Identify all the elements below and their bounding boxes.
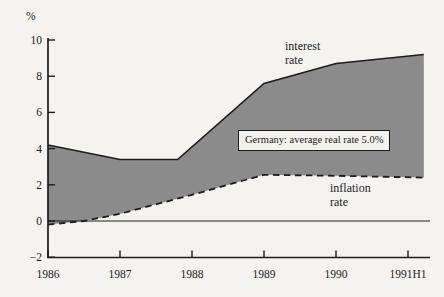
y-tick-label: 10 [31,34,43,46]
interest-rate-label: interest rate [285,40,320,67]
interest-rate-label-line2: rate [285,54,320,68]
x-tick-label: 1990 [325,268,348,280]
x-tick-label: 1988 [181,268,204,280]
average-real-rate-annotation: Germany: average real rate 5.0% [238,130,390,151]
x-tick-label: 1987 [109,268,132,280]
real-interest-rate-chart: 1086420−2198619871988198919901991H1 % in… [0,0,444,297]
y-tick-label: 4 [36,143,42,155]
y-axis-unit-label: % [26,10,36,22]
y-tick-label: 8 [36,70,42,82]
x-tick-label: 1991H1 [389,268,426,280]
y-tick-label: 2 [36,179,42,191]
interest-rate-label-line1: interest [285,40,320,54]
x-tick-label: 1989 [253,268,276,280]
x-tick-label: 1986 [37,268,60,280]
y-tick-label: 0 [36,215,42,227]
inflation-rate-label-line1: inflation [330,182,371,196]
inflation-rate-label: inflation rate [330,182,371,209]
inflation-rate-label-line2: rate [330,196,371,210]
y-tick-label: 6 [36,106,42,118]
y-tick-label: −2 [30,251,42,263]
